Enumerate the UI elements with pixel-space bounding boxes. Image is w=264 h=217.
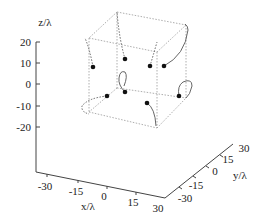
data-point: [91, 65, 96, 70]
z-tick-label: 10: [20, 57, 32, 69]
z-axis: 20 10 0 -10 -20 z/λ: [16, 16, 52, 172]
x-tick-label: -15: [69, 185, 84, 197]
y-axis-label: y/λ: [233, 169, 248, 181]
y-axis: -30 -15 0 15 30 y/λ: [165, 142, 250, 204]
z-tick-label: -20: [16, 121, 31, 133]
data-point: [123, 90, 128, 95]
y-tick-label: 30: [239, 142, 251, 154]
z-tick-label: 0: [26, 78, 32, 90]
data-point: [145, 101, 150, 106]
bounding-cube: [89, 12, 186, 128]
data-point: [162, 64, 167, 69]
x-tick-label: 0: [101, 190, 107, 202]
x-tick-label: 30: [153, 202, 165, 214]
y-tick-label: 15: [223, 153, 235, 165]
x-axis: -30 -15 0 15 30 x/λ: [36, 172, 165, 214]
data-point: [123, 57, 128, 62]
x-axis-label: x/λ: [81, 200, 96, 212]
z-tick-label: -10: [16, 100, 31, 112]
data-point: [177, 94, 182, 99]
y-tick-label: -15: [189, 179, 204, 191]
z-axis-label: z/λ: [38, 16, 52, 28]
data-point: [148, 64, 153, 69]
x-tick-label: -30: [38, 180, 53, 192]
z-tick-label: 20: [20, 36, 32, 48]
3d-scatter-plot: 20 10 0 -10 -20 z/λ -30 -15 0 15 30 x/λ …: [0, 0, 264, 217]
data-point: [105, 94, 110, 99]
x-tick-label: 15: [128, 196, 140, 208]
y-tick-label: 0: [212, 165, 218, 177]
y-tick-label: -30: [178, 192, 193, 204]
